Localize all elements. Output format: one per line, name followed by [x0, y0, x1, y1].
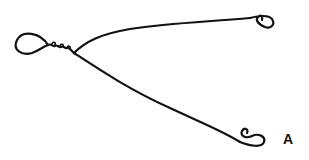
eye-loop [16, 34, 48, 54]
upper-arm [74, 18, 250, 53]
lower-end-curl [240, 129, 264, 146]
upper-end-curl [250, 16, 273, 28]
figure-label: A [283, 132, 293, 146]
wire-figure-drawing [0, 0, 309, 160]
lower-arm [74, 53, 240, 142]
